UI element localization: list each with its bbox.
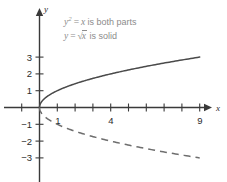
y-axis-label: y [43,4,48,14]
y-tick-label--1: −1 [21,119,32,130]
annotation-1-rhs-var: x [81,17,85,27]
curve-y-equals-sqrt-x [40,57,200,107]
chart-figure: x y 1 4 9 3 2 1 −1 [0,0,227,182]
x-tick-label-9: 9 [197,115,202,126]
y-tick-label-1: 1 [27,85,32,96]
annotation-2-relation: = [68,31,77,41]
y-tick-label-2: 2 [27,68,32,79]
annotation-block: y2=x is both parts y=√x is solid [64,12,204,43]
x-axis-label: x [215,103,220,113]
annotation-2-radicand: x [82,30,87,41]
annotation-1-relation: = [72,17,81,27]
curve-y-equals-negative-sqrt-x [40,108,200,158]
y-tick-label--3: −3 [21,152,32,163]
annotation-1-tail: is both parts [88,17,137,27]
x-tick-label-4: 4 [108,115,113,126]
annotation-both-parts: y2=x is both parts [64,12,204,29]
y-axis-arrow-icon [36,8,43,16]
x-axis-arrow-icon [204,104,212,111]
y-tick-label--2: −2 [21,136,32,147]
y-tick-label-3: 3 [27,52,32,63]
annotation-solid-branch: y=√x is solid [64,29,204,43]
annotation-2-tail: is solid [89,31,117,41]
